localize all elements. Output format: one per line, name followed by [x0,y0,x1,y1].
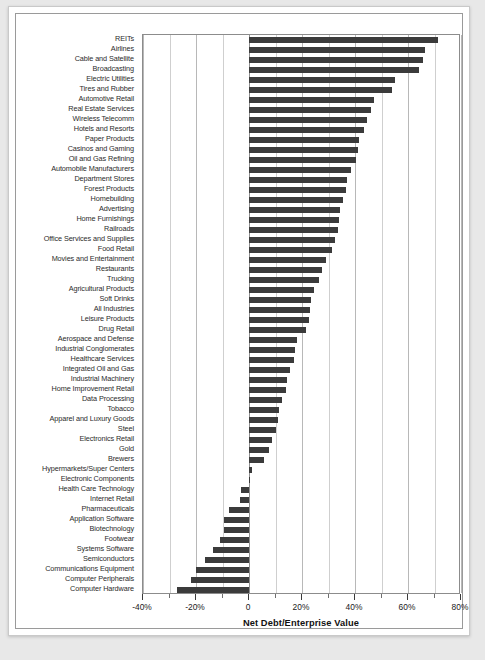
bar [229,507,249,513]
bar [249,327,306,333]
category-label: Paper Products [85,135,134,143]
bar [249,187,346,193]
category-label: Electronics Retail [79,435,134,443]
bar [249,347,295,353]
bar [249,457,264,463]
category-label: Aerospace and Defense [58,335,134,343]
bar [249,367,290,373]
bar [249,297,311,303]
figure-panel-inner: REITsAirlinesCable and SatelliteBroadcas… [15,13,463,629]
bar [249,227,338,233]
bar [249,117,367,123]
screenshot-page: REITsAirlinesCable and SatelliteBroadcas… [0,0,485,660]
category-label: Restaurants [96,265,134,273]
bar [249,217,339,223]
category-label: Data Processing [82,395,134,403]
bar [249,317,309,323]
category-label: Soft Drinks [99,295,134,303]
category-label: All Industries [94,305,134,313]
category-label: Oil and Gas Refining [69,155,134,163]
category-label: Forest Products [84,185,134,193]
bar-chart: REITsAirlinesCable and SatelliteBroadcas… [16,14,462,628]
bar [249,77,395,83]
category-label: Real Estate Services [68,105,134,113]
tick-mark [195,594,196,600]
bar [249,57,423,63]
x-axis-ticks [142,594,460,601]
figure-panel: REITsAirlinesCable and SatelliteBroadcas… [8,6,470,636]
category-label: Movies and Entertainment [52,255,134,263]
bar [249,207,340,213]
category-label: Food Retail [98,245,134,253]
bar [241,487,249,493]
category-label: Pharmaceuticals [82,505,134,513]
bar [249,127,364,133]
category-label: REITs [115,35,134,43]
category-label: Electric Utilities [86,75,134,83]
category-label: Brewers [108,455,134,463]
bar [249,97,374,103]
bar [240,497,249,503]
gridline [170,35,171,593]
bar [249,437,272,443]
tick-label: -40% [132,602,152,612]
category-label: Gold [119,445,134,453]
bar [249,307,310,313]
category-axis-labels: REITsAirlinesCable and SatelliteBroadcas… [16,34,138,594]
bar [249,447,269,453]
gridline [223,35,224,593]
bar [249,87,392,93]
category-label: Application Software [69,515,134,523]
tick-mark [460,594,461,600]
category-label: Internet Retail [90,495,134,503]
category-label: Department Stores [74,175,134,183]
tick-mark [407,594,408,600]
tick-mark [275,594,276,598]
bar [249,417,278,423]
category-label: Communications Equipment [45,565,134,573]
tick-label: 80% [452,602,469,612]
gridline [382,35,383,593]
category-label: Biotechnology [89,525,134,533]
gridline [461,35,462,593]
bar [249,397,282,403]
tick-mark [328,594,329,598]
bar [249,407,279,413]
tick-mark [248,594,249,600]
bar [249,477,250,483]
tick-mark [434,594,435,598]
gridline [196,35,197,593]
bar [205,557,249,563]
category-label: Homebuilding [91,195,134,203]
bar [249,247,332,253]
plot-area [142,34,460,594]
category-label: Industrial Machinery [71,375,134,383]
bar [249,137,359,143]
bar [249,167,351,173]
bar [249,357,294,363]
category-label: Tires and Rubber [79,85,134,93]
category-label: Systems Software [77,545,134,553]
bar [249,337,297,343]
gridline [408,35,409,593]
bar [249,177,347,183]
tick-label: 20% [293,602,310,612]
bar [249,277,319,283]
category-label: Automobile Manufacturers [51,165,134,173]
bar [249,67,419,73]
category-label: Advertising [99,205,134,213]
category-label: Railroads [104,225,134,233]
tick-mark [222,594,223,598]
category-label: Agricultural Products [69,285,134,293]
bar [213,547,249,553]
tick-mark [354,594,355,600]
category-label: Automotive Retail [79,95,135,103]
category-label: Semiconductors [83,555,134,563]
bar [249,387,286,393]
category-label: Apparel and Luxury Goods [50,415,134,423]
tick-label: 40% [346,602,363,612]
bar [220,537,249,543]
bar [249,197,343,203]
bar [191,577,249,583]
category-label: Casinos and Gaming [68,145,134,153]
